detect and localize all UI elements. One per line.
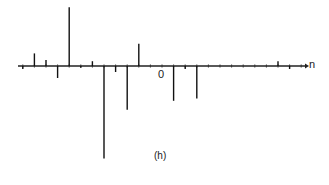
figure-caption: (h) [154,150,166,161]
origin-tick-label: 0 [158,68,164,80]
x-axis-label: n [309,58,315,70]
